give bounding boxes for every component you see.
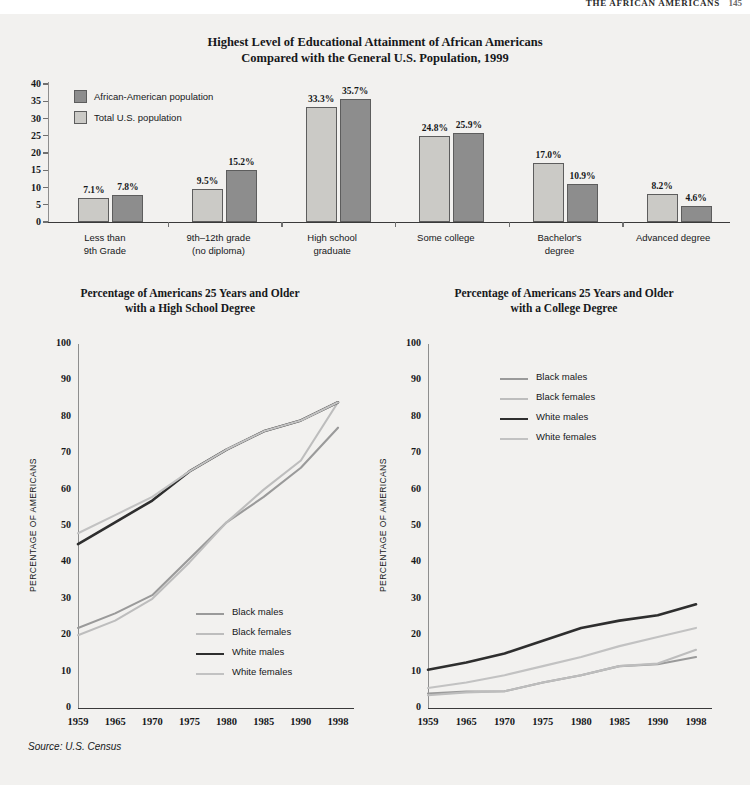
line-series [78,428,338,628]
bar-value-label: 8.2% [640,181,685,191]
running-head-page-number: 145 [729,0,743,8]
college-line-chart-panel: Percentage of Americans 25 Years and Old… [378,258,750,758]
bar-legend-swatch [74,90,87,103]
bar-chart-y-tick-label: 15 [8,164,41,175]
high-school-line-chart-panel: Percentage of Americans 25 Years and Old… [0,258,380,758]
line-series [78,402,338,635]
bar-value-label: 17.0% [526,150,571,160]
bar [226,170,257,222]
bar-chart-y-tick [43,152,48,153]
high-school-legend-line [196,673,224,675]
bar-chart-y-tick [43,101,48,102]
bar-value-label: 9.5% [185,176,230,186]
college-legend-line [500,378,528,380]
bar-chart-x-tick [168,222,169,227]
bar-category-label-line: graduate [263,245,401,258]
bar-chart-y-tick [43,170,48,171]
bar-value-label: 15.2% [219,157,264,167]
bar [681,206,712,222]
source-note: Source: U.S. Census [28,741,121,752]
bar-chart-y-tick-label: 35 [8,95,41,106]
bar-chart-title-line2: Compared with the General U.S. Populatio… [0,50,750,66]
high-school-legend-line [196,633,224,635]
college-legend-label: Black males [536,371,587,382]
bar-chart-y-tick-label: 5 [8,199,41,210]
bar-chart-y-tick-label: 25 [8,130,41,141]
bar-category-label: Advanced degree [604,232,742,245]
bar [340,99,371,222]
bar-legend-swatch [74,111,87,124]
bar [419,136,450,222]
line-series [78,402,338,533]
bar-value-label: 7.8% [105,182,150,192]
bar-chart-y-tick [43,118,48,119]
bar [306,107,337,222]
bar [567,184,598,222]
bar-chart-y-tick-label: 40 [8,78,41,89]
bar [192,189,223,222]
bar-legend-label: African-American population [94,91,213,102]
bar-chart-x-tick [622,222,623,227]
bar-category-label-line: Advanced degree [604,232,742,245]
college-legend-label: White females [536,431,596,442]
bar-chart-panel: Highest Level of Educational Attainment … [0,18,750,258]
high-school-legend-label: White males [232,646,284,657]
bar-value-label: 25.9% [446,120,491,130]
running-head: THE AFRICAN AMERICANS 145 [0,0,750,14]
high-school-legend-label: Black males [232,606,283,617]
high-school-legend-line [196,613,224,615]
bar-chart-y-tick [43,83,48,84]
college-legend-label: Black females [536,391,595,402]
bar-value-label: 35.7% [333,86,378,96]
bar-chart-x-tick [509,222,510,227]
bar-value-label: 10.9% [560,171,605,181]
bar-chart-y-tick-label: 10 [8,182,41,193]
college-legend-line [500,398,528,400]
bar-value-label: 4.6% [674,193,719,203]
bar-chart-y-tick [43,221,48,222]
bar-category-label-line: degree [491,245,629,258]
bar-chart-y-tick-label: 0 [8,216,41,227]
bar-chart-y-tick-label: 30 [8,113,41,124]
bar [112,195,143,222]
high-school-legend-label: White females [232,666,292,677]
bar-chart-y-tick [43,135,48,136]
college-legend-line [500,418,528,420]
bar-legend-label: Total U.S. population [94,112,182,123]
line-series [78,402,338,544]
bar-chart-x-tick [281,222,282,227]
line-series [428,650,696,696]
bar [453,133,484,222]
bar-chart-y-tick-label: 20 [8,147,41,158]
bar-chart-title-line1: Highest Level of Educational Attainment … [0,34,750,50]
high-school-series-group [0,258,380,758]
bar-chart-y-tick [43,187,48,188]
running-head-title: THE AFRICAN AMERICANS [586,0,720,8]
bar-chart-x-tick [395,222,396,227]
bar-chart-x-axis [48,222,730,223]
college-legend-label: White males [536,411,588,422]
bar [78,198,109,222]
high-school-legend-line [196,653,224,655]
college-legend-line [500,438,528,440]
bar-chart-title: Highest Level of Educational Attainment … [0,34,750,66]
high-school-legend-label: Black females [232,626,291,637]
bar-chart-y-axis [48,82,49,222]
bar-chart-y-tick [43,204,48,205]
page-canvas: THE AFRICAN AMERICANS 145 Highest Level … [0,0,750,785]
college-series-group [378,258,750,758]
